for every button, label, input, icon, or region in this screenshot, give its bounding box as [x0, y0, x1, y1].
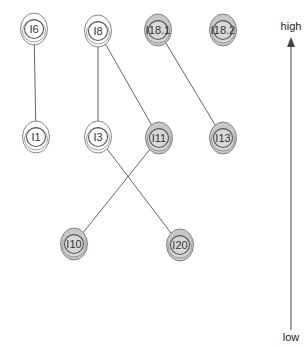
- edge-I11-I10: [74, 138, 159, 244]
- node-I10[interactable]: I10: [61, 228, 88, 260]
- node-label: I10: [66, 238, 81, 250]
- node-label: I18.1: [146, 24, 170, 36]
- node-label: I18.2: [211, 24, 235, 36]
- node-label: I11: [152, 132, 166, 144]
- axis-high-label: high: [281, 20, 302, 32]
- node-I20[interactable]: I20: [167, 229, 194, 261]
- arrow-up-icon: [287, 37, 295, 47]
- node-I6[interactable]: I6: [21, 13, 48, 45]
- node-label: I20: [172, 239, 187, 251]
- node-label: I3: [93, 131, 102, 143]
- node-I8[interactable]: I8: [85, 15, 112, 47]
- node-I18.2[interactable]: I18.2: [210, 14, 237, 46]
- edge-I3-I20: [98, 137, 180, 245]
- node-I18.1[interactable]: I18.1: [145, 14, 172, 46]
- hierarchy-diagram: I6I8I18.1I18.2I1I3I11I13I10I20 high low: [0, 0, 308, 346]
- node-I1[interactable]: I1: [23, 121, 50, 153]
- node-label: I8: [93, 25, 102, 37]
- edge-I18.1-I13: [158, 30, 223, 138]
- axis-low-label: low: [283, 331, 300, 343]
- node-I3[interactable]: I3: [85, 121, 112, 153]
- node-label: I13: [215, 132, 230, 144]
- node-I13[interactable]: I13: [210, 122, 237, 154]
- nodes-layer: I6I8I18.1I18.2I1I3I11I13I10I20: [21, 13, 237, 261]
- edge-I8-I11: [98, 31, 159, 138]
- vertical-axis: high low: [281, 20, 302, 343]
- node-I11[interactable]: I11: [146, 122, 173, 154]
- edges-layer: [34, 29, 223, 245]
- node-label: I1: [31, 131, 40, 143]
- node-label: I6: [29, 23, 38, 35]
